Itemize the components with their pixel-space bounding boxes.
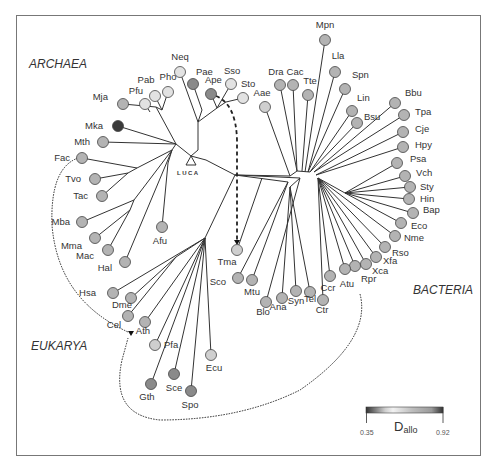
- figure-outline-border: [16, 15, 481, 456]
